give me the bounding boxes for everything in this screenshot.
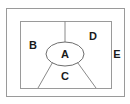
- region-label-e: E: [113, 48, 120, 60]
- region-label-c: C: [61, 70, 69, 82]
- lower-right-divider-line: [78, 63, 97, 89]
- region-label-d: D: [89, 30, 97, 42]
- euler-diagram-svg: A B C D E: [0, 0, 130, 104]
- region-label-a: A: [61, 48, 69, 60]
- lower-left-divider-line: [38, 63, 53, 89]
- diagram-canvas: A B C D E: [0, 0, 130, 104]
- region-label-b: B: [29, 39, 37, 51]
